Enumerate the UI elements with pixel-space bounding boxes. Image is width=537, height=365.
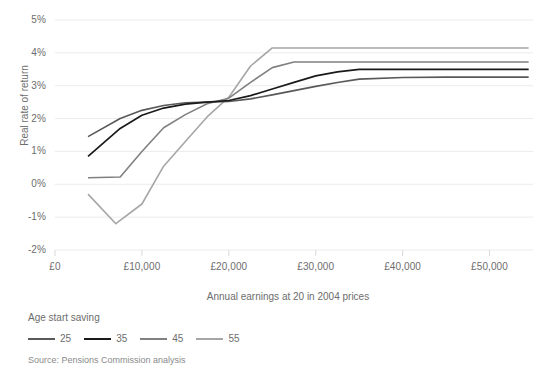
legend-line-swatch <box>196 338 223 340</box>
y-axis-tick-label: -2% <box>10 245 46 255</box>
x-axis-tick-label: £0 <box>20 262 90 272</box>
x-axis-ticks <box>55 250 490 256</box>
legend-item-55[interactable]: 55 <box>196 333 239 344</box>
series-line-45 <box>88 62 529 178</box>
x-axis-tick-label: £40,000 <box>368 262 438 272</box>
series-line-35 <box>88 69 529 156</box>
x-axis-tick-label: £30,000 <box>281 262 351 272</box>
legend-item-label: 45 <box>172 333 183 344</box>
source-note: Source: Pensions Commission analysis <box>28 355 186 365</box>
chart-legend: 25354555 <box>28 333 253 344</box>
y-axis-tick-label: -1% <box>10 212 46 222</box>
x-axis-title: Annual earnings at 20 in 2004 prices <box>118 291 458 302</box>
legend-item-label: 55 <box>228 333 239 344</box>
y-axis-tick-label: 5% <box>10 15 46 25</box>
y-axis-title: Real rate of return <box>19 36 30 176</box>
legend-line-swatch <box>84 338 111 340</box>
x-axis-tick-label: £50,000 <box>455 262 525 272</box>
y-axis-tick-label: 0% <box>10 179 46 189</box>
x-axis-tick-label: £10,000 <box>107 262 177 272</box>
legend-item-35[interactable]: 35 <box>84 333 127 344</box>
legend-item-label: 25 <box>60 333 71 344</box>
legend-line-swatch <box>28 338 55 340</box>
series-lines <box>88 48 529 224</box>
legend-line-swatch <box>140 338 167 340</box>
series-line-55 <box>88 48 529 224</box>
x-axis-tick-label: £20,000 <box>194 262 264 272</box>
legend-item-45[interactable]: 45 <box>140 333 183 344</box>
legend-title: Age start saving <box>28 312 100 323</box>
legend-item-25[interactable]: 25 <box>28 333 71 344</box>
legend-item-label: 35 <box>116 333 127 344</box>
